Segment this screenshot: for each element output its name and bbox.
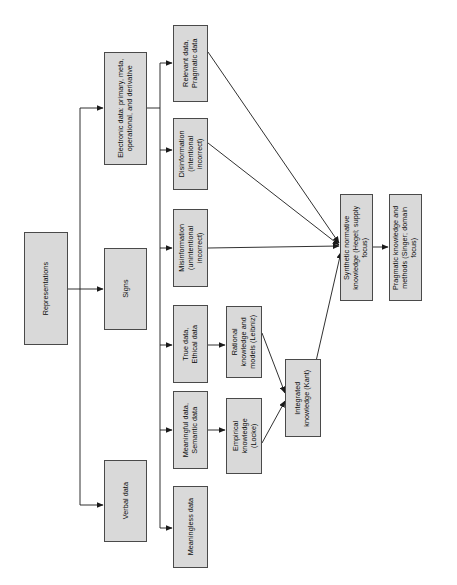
node-true-data[interactable]: True data, Ethical data xyxy=(173,305,208,383)
edge-misinformation-synthetic xyxy=(208,246,339,248)
node-misinformation[interactable]: Misinformation (unintentional incorrect) xyxy=(173,209,208,287)
node-representations-label: Representations xyxy=(41,262,50,315)
node-relevant-data-label: Relevant data, Pragmatic data xyxy=(181,39,199,88)
node-empirical-knowledge-label: Empirical knowledge (Locke) xyxy=(230,418,258,453)
node-pragmatic-knowledge-label: Pragmatic knowledge and methods (Singer;… xyxy=(392,205,420,289)
node-meaningful-data[interactable]: Meaningful data, Semantic data xyxy=(173,391,208,469)
node-misinformation-label: Misinformation (unintentional incorrect) xyxy=(177,224,205,272)
node-integrated-knowledge[interactable]: Integrated knowledge (Kant) xyxy=(285,359,321,437)
node-empirical-knowledge[interactable]: Empirical knowledge (Locke) xyxy=(226,398,262,474)
node-signs-label: Signs xyxy=(121,280,130,298)
node-true-data-label: True data, Ethical data xyxy=(181,325,199,363)
edge-disinformation-synthetic xyxy=(208,143,339,245)
node-synthetic-normative-knowledge-label: Synthetic normative knowledge (Hegel; su… xyxy=(343,205,371,289)
node-electronic-data[interactable]: Electronic data: primary, meta, operatio… xyxy=(104,52,147,165)
node-disinformation[interactable]: Disinformation (intentional incorrect) xyxy=(173,118,208,190)
diagram-canvas: Representations Electronic data: primary… xyxy=(0,0,457,585)
node-relevant-data[interactable]: Relevant data, Pragmatic data xyxy=(173,25,208,102)
node-representations[interactable]: Representations xyxy=(24,232,68,345)
node-verbal-data-label: Verbal data xyxy=(121,482,130,519)
node-disinformation-label: Disinformation (intentional incorrect) xyxy=(177,131,205,178)
edge-rational-integrated xyxy=(262,333,285,393)
node-rational-knowledge-label: Rational knowledge and models (Leibniz) xyxy=(230,315,258,369)
edge-empirical-integrated xyxy=(262,401,285,443)
edge-integrated-synthetic xyxy=(314,252,341,370)
edge-relevant-synthetic xyxy=(208,52,339,243)
node-electronic-data-label: Electronic data: primary, meta, operatio… xyxy=(116,59,134,158)
node-signs[interactable]: Signs xyxy=(104,248,147,330)
node-meaningless-data-label: Meaningless data xyxy=(186,498,195,556)
node-verbal-data[interactable]: Verbal data xyxy=(104,460,147,542)
node-rational-knowledge[interactable]: Rational knowledge and models (Leibniz) xyxy=(226,306,262,378)
node-pragmatic-knowledge[interactable]: Pragmatic knowledge and methods (Singer;… xyxy=(389,194,422,301)
node-integrated-knowledge-label: Integrated knowledge (Kant) xyxy=(294,369,312,426)
node-meaningful-data-label: Meaningful data, Semantic data xyxy=(181,403,199,457)
node-meaningless-data[interactable]: Meaningless data xyxy=(173,486,208,568)
node-synthetic-normative-knowledge[interactable]: Synthetic normative knowledge (Hegel; su… xyxy=(340,194,373,301)
